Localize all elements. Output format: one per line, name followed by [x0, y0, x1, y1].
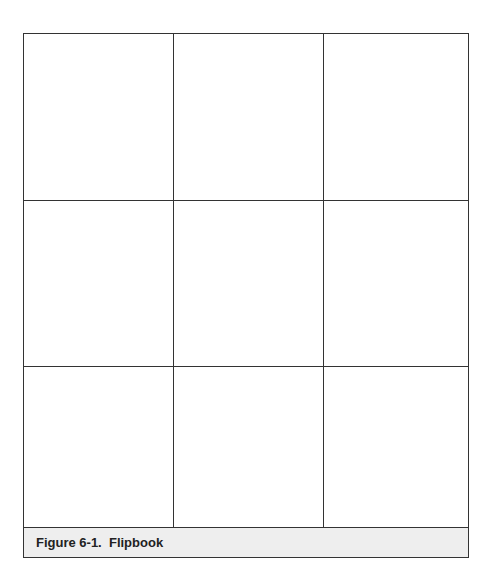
flipbook-panel-r3c1	[24, 367, 174, 528]
flipbook-panel-r2c1	[24, 201, 174, 367]
flipbook-grid	[24, 34, 468, 528]
flipbook-figure: Figure 6-1. Flipbook	[23, 33, 469, 558]
flipbook-panel-r3c2	[174, 367, 324, 528]
flipbook-panel-r2c2	[174, 201, 324, 367]
flipbook-panel-r2c3	[324, 201, 468, 367]
flipbook-panel-r3c3	[324, 367, 468, 528]
flipbook-panel-r1c1	[24, 34, 174, 201]
flipbook-panel-r1c2	[174, 34, 324, 201]
figure-caption: Figure 6-1. Flipbook	[24, 528, 468, 557]
flipbook-panel-r1c3	[324, 34, 468, 201]
